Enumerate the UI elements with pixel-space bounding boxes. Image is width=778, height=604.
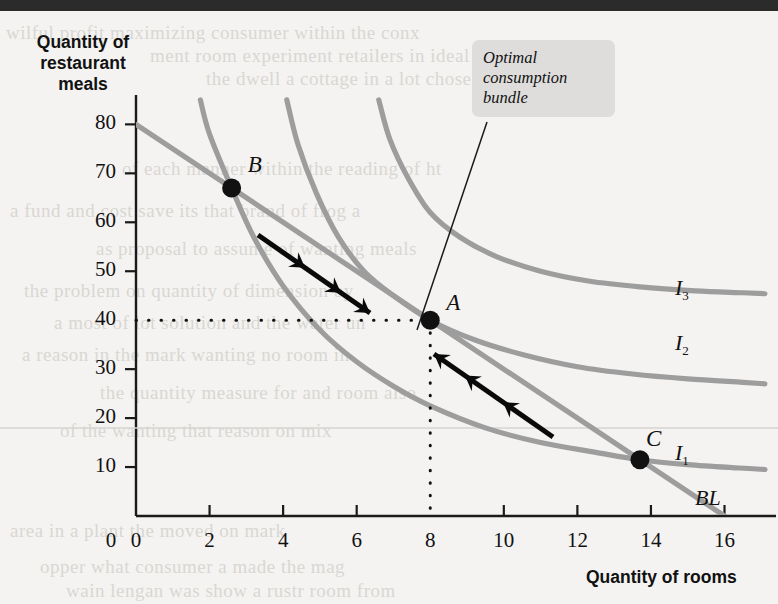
- data-point-B: [222, 179, 241, 198]
- x-axis-tick-label: 8: [400, 528, 460, 553]
- optimal-bundle-callout: Optimalconsumptionbundle: [472, 40, 615, 117]
- y-axis-tick-label: 80: [58, 110, 116, 135]
- data-point-label-C: C: [646, 426, 661, 452]
- data-point-label-B: B: [248, 152, 262, 178]
- y-axis-tick-label: 20: [58, 404, 116, 429]
- callout-line: Optimal: [483, 48, 605, 68]
- curve-I3: [379, 100, 765, 294]
- x-axis-tick-label: 10: [474, 528, 534, 553]
- y-axis-tick-label: 10: [58, 453, 116, 478]
- y-axis-tick-label: 50: [58, 257, 116, 282]
- arrow-shaft: [434, 354, 553, 437]
- x-axis-tick-label: 4: [253, 528, 313, 553]
- plot-area: [0, 0, 778, 604]
- callout-line: consumption: [483, 68, 605, 88]
- x-axis-tick-label: 12: [547, 528, 607, 553]
- y-axis-tick-label: 70: [58, 159, 116, 184]
- curve-label-I2: I2: [675, 330, 689, 359]
- x-axis-ticks: [210, 505, 725, 516]
- x-axis-tick-label: 6: [327, 528, 387, 553]
- curve-label-I1: I1: [675, 440, 689, 469]
- x-axis-tick-label: 2: [180, 528, 240, 553]
- y-axis-tick-label: 60: [58, 208, 116, 233]
- data-point-label-A: A: [446, 290, 460, 316]
- direction-arrows: [258, 235, 553, 437]
- guide-lines: [136, 320, 430, 516]
- figure-optimal-consumption-bundle: wilful profit maximizing consumer within…: [0, 0, 778, 604]
- curve-label-I3: I3: [675, 275, 689, 304]
- x-axis-tick-label: 14: [621, 528, 681, 553]
- y-axis-tick-label: 30: [58, 355, 116, 380]
- callout-line: bundle: [483, 88, 605, 108]
- data-point-A: [421, 311, 440, 330]
- y-axis-tick-label: 40: [58, 306, 116, 331]
- curve-label-BL: BL: [695, 485, 721, 511]
- y-axis-ticks: [125, 124, 136, 467]
- x-axis-tick-label: 16: [695, 528, 755, 553]
- data-point-C: [630, 450, 649, 469]
- origin-label: 0: [91, 528, 131, 553]
- curve-I2: [287, 100, 765, 384]
